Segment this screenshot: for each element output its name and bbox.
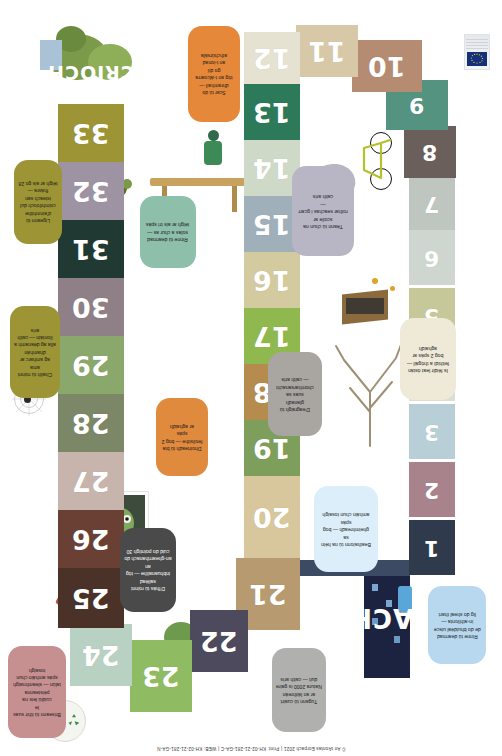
instruction-bubble-text: Ligeann tú d'ainmhithe coimhthíoch dul i… xyxy=(18,180,58,224)
city-window-art xyxy=(372,584,378,591)
board-square[interactable]: 30 xyxy=(58,278,124,336)
instruction-bubble: Rinne tú dearmad solas a chur as — téigh… xyxy=(140,196,196,268)
board-square[interactable]: 6 xyxy=(409,230,455,285)
footer-credit-text: © An tAontas Eorpach 2021 | Print: KH-02… xyxy=(157,746,345,751)
board-square-number: 26 xyxy=(72,526,110,553)
board-square-number: 13 xyxy=(253,99,291,126)
board-square[interactable]: 26 xyxy=(58,510,124,568)
board-square-number: 10 xyxy=(368,53,406,80)
table-leg-art xyxy=(232,186,237,212)
board-square[interactable]: 16 xyxy=(244,252,300,308)
board-square[interactable]: 27 xyxy=(58,452,124,510)
board-square[interactable]: 3 xyxy=(409,404,455,459)
instruction-bubble: Briseann tú ithir suas le cuidiú leis na… xyxy=(8,646,66,738)
board-square-number: 7 xyxy=(424,193,439,215)
instruction-bubble: Ligeann tú d'ainmhithe coimhthíoch dul i… xyxy=(14,160,62,244)
instruction-bubble-text: Rinne tú dearmad solas a chur as — téigh… xyxy=(146,221,189,243)
board-square-number: 25 xyxy=(72,585,110,612)
footer-credit: © An tAontas Eorpach 2021 | Print: KH-02… xyxy=(0,736,502,754)
insect-hotel-art xyxy=(346,298,384,314)
board-square-number: 24 xyxy=(82,642,120,669)
instruction-bubble: Chaith tú roinnt ama ag amharc ar dhamhá… xyxy=(10,306,60,398)
board-square-number: 21 xyxy=(249,581,287,608)
instruction-bubble-text: Beathaíonn tú na héin sa gheimhreadh — b… xyxy=(318,511,374,548)
board-square[interactable]: 10 xyxy=(352,40,422,92)
finish-label-text: CRÍOCH xyxy=(47,62,135,84)
board-square-number: 8 xyxy=(422,141,437,163)
board-square-number: 12 xyxy=(253,45,291,72)
board-square[interactable]: 31 xyxy=(58,220,124,278)
board-square-number: 15 xyxy=(253,211,291,238)
recycling-icon xyxy=(66,712,82,728)
board-square-number: 22 xyxy=(200,628,238,655)
board-square-number: 19 xyxy=(253,435,291,462)
board-square[interactable]: 7 xyxy=(409,178,455,230)
board-square[interactable]: 1 xyxy=(409,520,455,575)
board-square-number: 14 xyxy=(253,155,291,182)
instruction-bubble-text: Dhoirteadh tú bia feoilsithe — bog 2 spá… xyxy=(160,422,204,452)
board-square-number: 9 xyxy=(409,94,424,116)
board-square[interactable]: 28 xyxy=(58,394,124,452)
instruction-bubble-text: D'eagraigh tú glanadh suas sa chomharsan… xyxy=(272,376,318,413)
instruction-bubble: Dhoirteadh tú bia feoilsithe — bog 2 spá… xyxy=(156,398,208,476)
board-square-number: 2 xyxy=(424,479,439,501)
instruction-bubble-text: Briseann tú ithir suas le cuidiú leis na… xyxy=(12,666,62,718)
instruction-bubble-text: Is féidir leat óstán feithidí a thógáil … xyxy=(404,344,452,374)
board-square[interactable]: 32 xyxy=(58,162,124,220)
person-head-art xyxy=(208,130,219,141)
board-square-number: 3 xyxy=(424,421,439,443)
table-scene-art xyxy=(150,178,248,186)
instruction-bubble: Is féidir leat óstán feithidí a thógáil … xyxy=(400,318,456,400)
instruction-bubble: Scar tú do dhramhaíl — tóg an t-álcoarra… xyxy=(188,26,240,122)
bee-art xyxy=(390,286,395,291)
board-square[interactable]: 2 xyxy=(409,462,455,517)
board-square[interactable]: 25 xyxy=(58,568,124,628)
board-square-number: 23 xyxy=(142,663,180,690)
board-square-number: 11 xyxy=(308,38,346,65)
board-square[interactable]: 13 xyxy=(244,84,300,140)
board-square[interactable]: 11 xyxy=(296,25,358,77)
finish-label: CRÍOCH xyxy=(60,44,122,102)
board-square-number: 31 xyxy=(72,236,110,263)
instruction-bubble-text: Tugann tú cuairt ar an láithreán Natura … xyxy=(276,675,322,705)
eu-flag-text-lines xyxy=(466,36,488,49)
bee-art xyxy=(372,278,378,284)
instruction-bubble-text: D'fhás tú roinnt sailéad inbhuanaithe — … xyxy=(124,548,172,592)
board-square-number: 1 xyxy=(424,537,439,559)
person-body-art xyxy=(204,141,222,165)
board-square-number: 17 xyxy=(253,323,291,350)
board-square-number: 28 xyxy=(72,410,110,437)
instruction-bubble-text: Chaith tú roinnt ama ag amharc ar dhamhá… xyxy=(14,326,56,378)
board-square[interactable]: 23 xyxy=(130,640,192,712)
poster-root: … an-tábhachtach… — an timpeallacht… an … xyxy=(0,0,502,756)
board-square[interactable]: 20 xyxy=(244,476,300,558)
instruction-bubble: D'eagraigh tú glanadh suas sa chomharsan… xyxy=(268,352,322,436)
instruction-bubble: Téann tú chun na scoile ar rothar seacha… xyxy=(292,166,354,256)
board-square[interactable]: 12 xyxy=(244,32,300,84)
instruction-bubble-text: Rinne tú dearmad de do bhuidéal uisce in… xyxy=(434,610,481,640)
instruction-bubble: Rinne tú dearmad de do bhuidéal uisce in… xyxy=(428,586,486,664)
board-square[interactable]: 33 xyxy=(58,104,124,162)
board-square[interactable]: 8 xyxy=(404,126,456,178)
board-square-number: 32 xyxy=(72,178,110,205)
board-square-number: 33 xyxy=(72,120,110,147)
instruction-bubble-text: Scar tú do dhramhaíl — tóg an t-álcoarra… xyxy=(192,52,236,96)
eu-flag-icon xyxy=(464,34,490,70)
board-square-number: 30 xyxy=(72,294,110,321)
cropped-headline: … an-tábhachtach… — an timpeallacht… an … xyxy=(0,0,502,10)
bare-tree-art xyxy=(330,330,404,448)
instruction-bubble: D'fhás tú roinnt sailéad inbhuanaithe — … xyxy=(120,528,176,612)
instruction-bubble: Beathaíonn tú na héin sa gheimhreadh — b… xyxy=(314,486,378,572)
instruction-bubble-text: Téann tú chun na scoile ar rothar seacha… xyxy=(296,193,350,230)
board-square[interactable]: 29 xyxy=(58,336,124,394)
instruction-bubble: Tugann tú cuairt ar an láithreán Natura … xyxy=(272,648,326,732)
board-square[interactable]: 24 xyxy=(70,624,132,686)
board-square-number: 29 xyxy=(72,352,110,379)
board-square-number: 27 xyxy=(72,468,110,495)
eu-flag-stars xyxy=(467,52,487,66)
board-square-number: 16 xyxy=(253,267,291,294)
board-square[interactable]: 22 xyxy=(190,610,248,672)
board-square-number: 6 xyxy=(424,247,439,269)
board-square-number: 20 xyxy=(253,504,291,531)
